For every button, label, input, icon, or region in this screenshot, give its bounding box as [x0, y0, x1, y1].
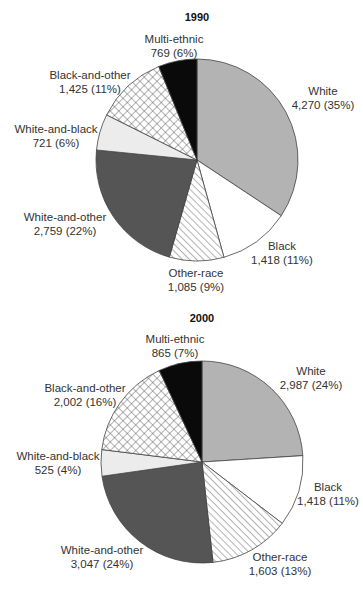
label-black-1990: Black 1,418 (11%)	[251, 240, 313, 266]
svg-text:1,425 (11%): 1,425 (11%)	[59, 83, 121, 95]
svg-text:Black-and-other: Black-and-other	[49, 69, 130, 81]
pie-chart-2000: 2000 White 2,987 (24%) Black 1,418 (11%)…	[16, 312, 359, 577]
svg-text:2,759 (22%): 2,759 (22%)	[34, 225, 97, 237]
chart-title-1990: 1990	[185, 11, 209, 23]
svg-text:1,085 (9%): 1,085 (9%)	[168, 281, 224, 293]
svg-text:White-and-other: White-and-other	[24, 211, 107, 223]
slice-white	[202, 361, 303, 462]
label-multi-ethnic-2000: Multi-ethnic 865 (7%)	[146, 333, 205, 359]
label-white-and-other-1990: White-and-other 2,759 (22%)	[24, 211, 107, 237]
svg-text:2,987 (24%): 2,987 (24%)	[280, 379, 343, 391]
svg-text:1,603 (13%): 1,603 (13%)	[249, 565, 312, 577]
pie-charts-figure: 1990 White 4,270 (35%) Black 1,418 (11%)…	[0, 0, 363, 589]
pie-slices-2000	[101, 361, 303, 563]
pie-slices-1990	[96, 59, 298, 261]
label-white-2000: White 2,987 (24%)	[280, 365, 343, 391]
svg-text:White-and-black: White-and-black	[14, 123, 97, 135]
svg-text:1,418 (11%): 1,418 (11%)	[251, 254, 313, 266]
svg-text:Multi-ethnic: Multi-ethnic	[145, 33, 204, 45]
svg-text:White: White	[296, 365, 325, 377]
pie-chart-1990: 1990 White 4,270 (35%) Black 1,418 (11%)…	[14, 11, 354, 293]
label-multi-ethnic-1990: Multi-ethnic 769 (6%)	[145, 33, 204, 59]
svg-text:525 (4%): 525 (4%)	[35, 464, 82, 476]
label-white-and-black-1990: White-and-black 721 (6%)	[14, 123, 97, 149]
label-black-and-other-1990: Black-and-other 1,425 (11%)	[49, 69, 130, 95]
label-black-2000: Black 1,418 (11%)	[297, 481, 359, 507]
chart-title-2000: 2000	[190, 312, 214, 324]
svg-text:Black: Black	[314, 481, 342, 493]
svg-text:Black-and-other: Black-and-other	[44, 382, 125, 394]
svg-text:Other-race: Other-race	[169, 267, 224, 279]
label-white-1990: White 4,270 (35%)	[292, 85, 355, 111]
svg-text:2,002 (16%): 2,002 (16%)	[54, 396, 117, 408]
svg-text:769 (6%): 769 (6%)	[151, 47, 198, 59]
svg-text:865 (7%): 865 (7%)	[152, 347, 199, 359]
svg-text:White-and-black: White-and-black	[16, 450, 99, 462]
label-black-and-other-2000: Black-and-other 2,002 (16%)	[44, 382, 125, 408]
label-white-and-other-2000: White-and-other 3,047 (24%)	[61, 544, 144, 570]
svg-text:Multi-ethnic: Multi-ethnic	[146, 333, 205, 345]
label-other-race-2000: Other-race 1,603 (13%)	[249, 551, 312, 577]
svg-text:1,418 (11%): 1,418 (11%)	[297, 495, 359, 507]
label-white-and-black-2000: White-and-black 525 (4%)	[16, 450, 99, 476]
svg-text:3,047 (24%): 3,047 (24%)	[71, 558, 134, 570]
svg-text:White: White	[308, 85, 337, 97]
label-other-race-1990: Other-race 1,085 (9%)	[168, 267, 224, 293]
svg-text:White-and-other: White-and-other	[61, 544, 144, 556]
svg-text:4,270 (35%): 4,270 (35%)	[292, 99, 355, 111]
svg-text:Other-race: Other-race	[253, 551, 308, 563]
svg-text:721 (6%): 721 (6%)	[33, 137, 80, 149]
svg-text:Black: Black	[268, 240, 296, 252]
